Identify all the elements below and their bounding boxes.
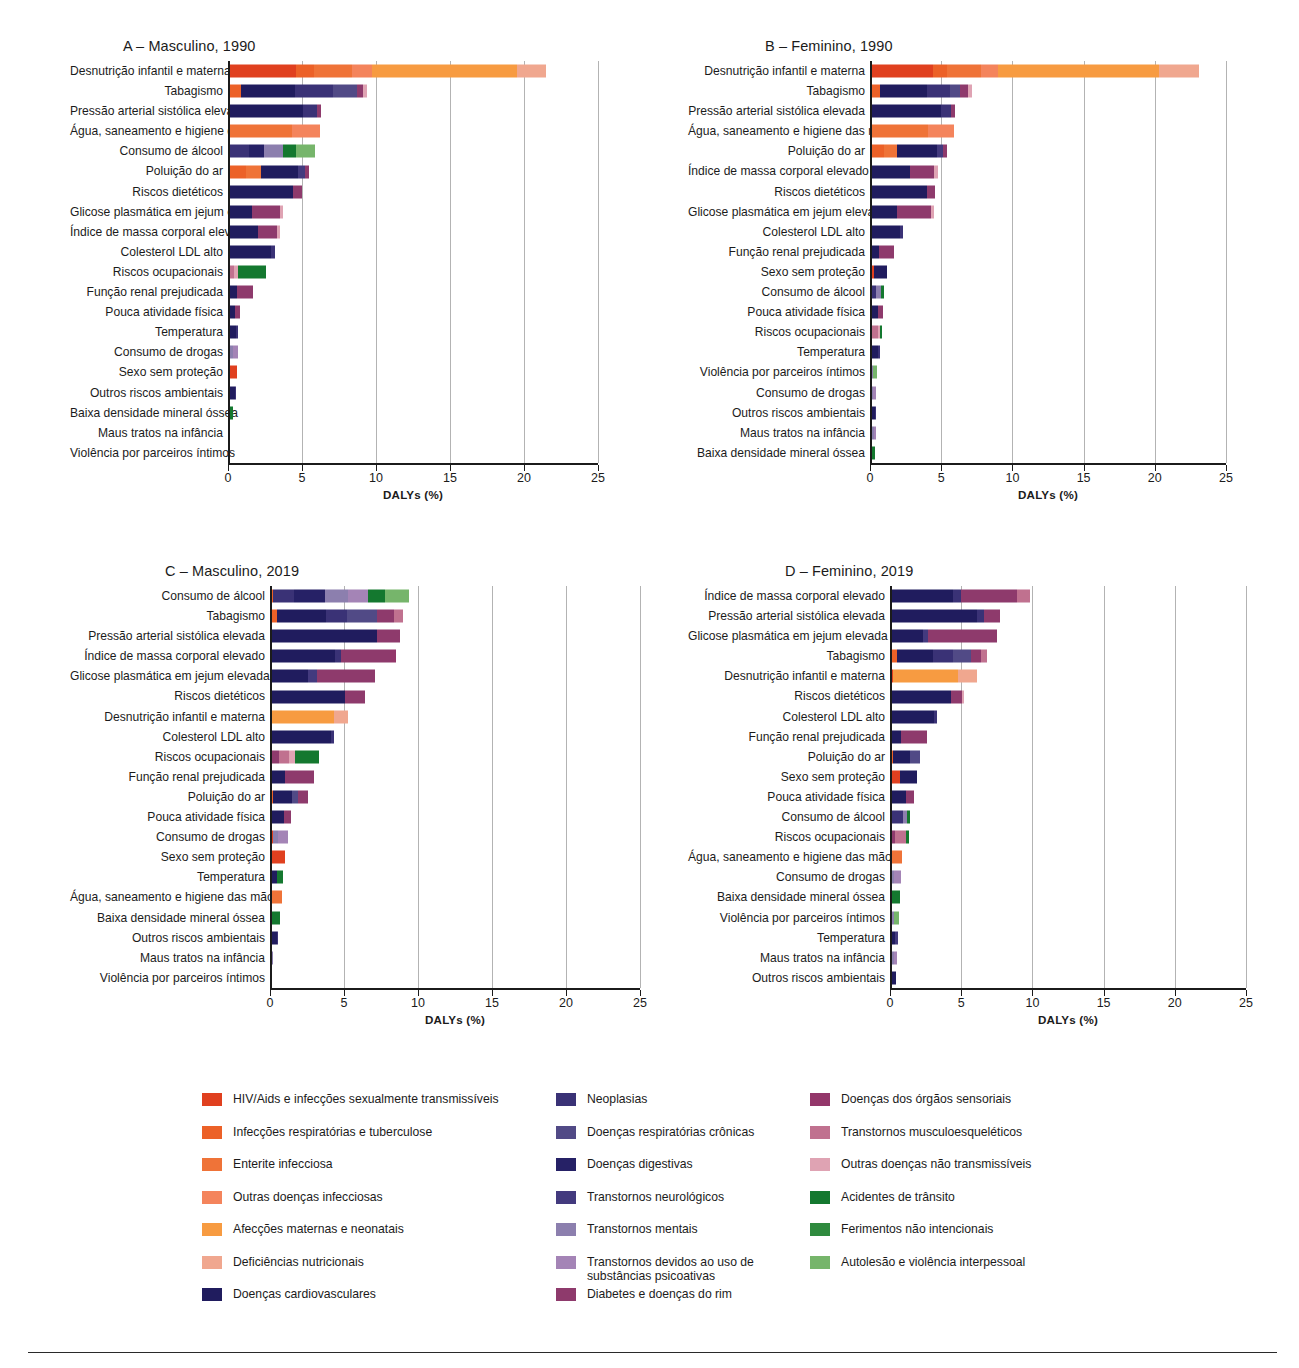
bar-segment-cardiovascular: [870, 205, 897, 218]
bar-row: Riscos ocupacionais: [70, 747, 640, 767]
bar-track: [228, 222, 598, 242]
bar-row: Pouca atividade física: [688, 787, 1246, 807]
x-tick-label-25: 25: [1239, 996, 1253, 1010]
bar-track: [870, 302, 1226, 322]
stacked-bar: [870, 185, 935, 198]
bar-segment-selfharm-violence: [296, 145, 315, 158]
bar-row: Poluição do ar: [688, 747, 1246, 767]
bar-segment-maternal-neonatal: [272, 710, 334, 723]
x-tick-label-20: 20: [1168, 996, 1182, 1010]
bar-track: [870, 182, 1226, 202]
category-label: Poluição do ar: [70, 791, 270, 803]
legend-item-substance-use: Transtornos devidos ao uso de substância…: [556, 1255, 816, 1288]
bar-track: [890, 727, 1246, 747]
category-label: Função renal prejudicada: [688, 731, 890, 743]
bar-track: [870, 322, 1226, 342]
bar-row: Maus tratos na infância: [688, 948, 1246, 968]
legend-item-road-injuries: Acidentes de trânsito: [810, 1190, 1110, 1223]
x-tick-label-15: 15: [1097, 996, 1111, 1010]
bar-track: [228, 362, 598, 382]
bar-track: [228, 342, 598, 362]
legend-item-enteric: Enterite infecciosa: [202, 1157, 532, 1190]
bar-segment-road-injuries: [238, 265, 266, 278]
x-tick-label-0: 0: [887, 996, 894, 1010]
bar-row: Pouca atividade física: [688, 302, 1226, 322]
bar-segment-neoplasms: [331, 730, 334, 743]
bar-segment-diabetes-kidney: [305, 165, 309, 178]
bar-segment-cardiovascular: [277, 610, 326, 623]
bar-row: Sexo sem proteção: [70, 362, 598, 382]
plot-area-c: Consumo de álcoolTabagismoPressão arteri…: [70, 586, 640, 988]
bar-segment-neurological: [895, 931, 898, 944]
bar-segment-neoplasms: [303, 105, 316, 118]
bar-segment-diabetes-kidney: [906, 790, 915, 803]
legend-item-nutritional-def: Deficiências nutricionais: [202, 1255, 532, 1288]
bar-segment-neoplasms: [941, 105, 951, 118]
bar-track: [890, 707, 1246, 727]
x-axis-line: [870, 463, 1226, 465]
legend-label: Infecções respiratórias e tuberculose: [233, 1125, 432, 1139]
bar-segment-other-infectious: [352, 65, 371, 78]
bar-segment-cardiovascular: [228, 205, 252, 218]
bar-segment-resp-tb: [228, 165, 246, 178]
legend-item-digestive: Doenças digestivas: [556, 1157, 816, 1190]
bar-track: [890, 827, 1246, 847]
panel-title-b: B – Feminino, 1990: [765, 38, 1226, 54]
stacked-bar: [270, 590, 409, 603]
gridline-25: [1246, 586, 1247, 988]
bar-segment-diabetes-kidney: [237, 286, 253, 299]
legend-column-3: Doenças dos órgãos sensoriaisTranstornos…: [810, 1092, 1110, 1287]
chart-panel-c: C – Masculino, 2019Consumo de álcoolTaba…: [70, 563, 640, 1024]
legend-item-hiv-sti: HIV/Aids e infecções sexualmente transmi…: [202, 1092, 532, 1125]
bar-segment-neoplasms: [273, 590, 294, 603]
bar-track: [890, 747, 1246, 767]
bar-row: Colesterol LDL alto: [688, 707, 1246, 727]
bar-segment-chronic-resp: [333, 85, 357, 98]
category-label: Desnutrição infantil e materna: [688, 65, 870, 77]
x-tick-label-15: 15: [485, 996, 499, 1010]
stacked-bar: [870, 265, 887, 278]
bar-segment-cardiovascular: [874, 265, 887, 278]
category-label: Riscos dietéticos: [70, 690, 270, 702]
stacked-bar: [228, 185, 302, 198]
bar-segment-cardiovascular: [897, 145, 937, 158]
legend-swatch-selfharm-violence: [810, 1256, 830, 1269]
bar-segment-diabetes-kidney: [235, 306, 239, 319]
bar-track: [228, 202, 598, 222]
bar-track: [270, 908, 640, 928]
bar-row: Tabagismo: [688, 81, 1226, 101]
legend-label: Transtornos mentais: [587, 1222, 698, 1236]
bar-track: [870, 61, 1226, 81]
bar-segment-neoplasms: [953, 590, 962, 603]
bar-segment-digestive: [294, 590, 325, 603]
x-axis-title: DALYs (%): [425, 1013, 485, 1026]
stacked-bar: [228, 205, 283, 218]
category-label: Pouca atividade física: [688, 791, 890, 803]
bar-segment-digestive: [249, 145, 264, 158]
x-axis: 0510152025DALYs (%): [688, 463, 1226, 499]
legend-swatch-road-injuries: [810, 1191, 830, 1204]
y-axis-line: [270, 586, 272, 988]
bar-row: Água, saneamento e higiene das mãos: [688, 121, 1226, 141]
bar-row: Função renal prejudicada: [70, 282, 598, 302]
category-label: Função renal prejudicada: [70, 286, 228, 298]
stacked-bar: [870, 205, 934, 218]
category-label: Temperatura: [688, 932, 890, 944]
bar-segment-substance-use: [894, 871, 900, 884]
category-label: Riscos ocupacionais: [688, 326, 870, 338]
y-axis-line: [890, 586, 892, 988]
stacked-bar: [890, 770, 917, 783]
bar-track: [270, 968, 640, 988]
bar-segment-resp-tb: [933, 65, 947, 78]
bar-track: [890, 948, 1246, 968]
bar-row: Índice de massa corporal elevado: [70, 222, 598, 242]
stacked-bar: [870, 105, 955, 118]
bar-segment-enteric: [314, 65, 352, 78]
x-axis-title: DALYs (%): [1038, 1013, 1098, 1026]
legend-label: Neoplasias: [587, 1092, 647, 1106]
x-tick-label-25: 25: [633, 996, 647, 1010]
bar-segment-diabetes-kidney: [971, 650, 981, 663]
stacked-bar: [270, 610, 403, 623]
category-label: Função renal prejudicada: [70, 771, 270, 783]
category-label: Baixa densidade mineral óssea: [70, 407, 228, 419]
